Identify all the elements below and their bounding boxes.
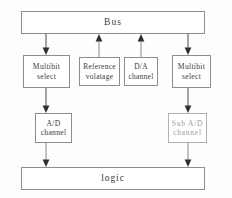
block-sub-ad-channel: Sub A/D channel: [168, 113, 207, 143]
block-ad-channel-line2: channel: [41, 128, 67, 137]
block-sub-ad-channel-line1: Sub A/D: [172, 119, 203, 128]
block-reference-voltage: Reference volatage: [79, 57, 120, 86]
block-diagram: Bus Multibit select Reference volatage D…: [0, 0, 232, 198]
block-da-channel-line2: channel: [128, 72, 153, 81]
connector-multibit-left-to-ad-channel: [39, 88, 53, 113]
block-reference-voltage-line2: volatage: [86, 72, 113, 81]
block-bus-label: Bus: [104, 17, 122, 29]
block-da-channel: D/A channel: [124, 57, 158, 86]
block-logic-label: logic: [101, 173, 125, 185]
block-multibit-select-left: Multibit select: [23, 55, 70, 88]
block-multibit-select-left-line2: select: [37, 72, 56, 81]
connector-reference-to-bus: [92, 33, 106, 57]
block-reference-voltage-line1: Reference: [83, 62, 116, 71]
block-sub-ad-channel-line2: channel: [173, 128, 202, 137]
block-logic: logic: [21, 167, 205, 190]
block-da-channel-line1: D/A: [134, 62, 148, 71]
connector-bus-to-multibit-left: [39, 33, 53, 55]
connector-ad-channel-to-logic: [39, 143, 53, 167]
block-multibit-select-left-line1: Multibit: [33, 62, 60, 71]
block-multibit-select-right: Multibit select: [172, 55, 211, 88]
block-ad-channel-line1: A/D: [47, 119, 61, 128]
connector-bus-to-multibit-right: [181, 33, 195, 55]
connector-sub-ad-channel-to-logic: [181, 143, 195, 167]
block-multibit-select-right-line2: select: [182, 72, 201, 81]
block-multibit-select-right-line1: Multibit: [178, 62, 205, 71]
connector-multibit-right-to-sub-ad-channel: [181, 88, 195, 113]
block-ad-channel: A/D channel: [35, 113, 72, 143]
connector-da-channel-to-bus: [134, 33, 148, 57]
block-bus: Bus: [21, 11, 205, 34]
